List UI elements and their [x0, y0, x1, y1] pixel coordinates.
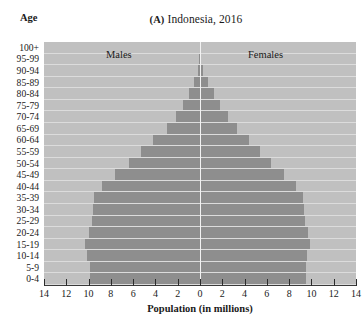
bar-male — [167, 123, 200, 134]
age-tick-label: 10-14 — [17, 251, 39, 261]
x-axis-tick-label: 8 — [287, 288, 292, 299]
x-axis-tick — [334, 279, 335, 286]
bar-male — [87, 250, 200, 261]
bar-male — [115, 169, 200, 180]
bar-male — [102, 181, 200, 192]
x-axis-tick — [245, 279, 246, 286]
age-tick-label: 55-59 — [17, 147, 39, 157]
bar-male — [94, 192, 200, 203]
age-tick-label: 85-89 — [17, 78, 39, 88]
age-tick-label: 35-39 — [17, 193, 39, 203]
chart-title: (A) Indonesia, 2016 — [36, 13, 356, 25]
bar-male — [85, 239, 200, 250]
bar-female — [200, 77, 208, 88]
series-label-males: Males — [106, 49, 132, 60]
age-tick-label: 60-64 — [17, 135, 39, 145]
bar-male — [89, 227, 200, 238]
x-axis-tick-label: 4 — [242, 288, 247, 299]
x-axis-tick-label: 6 — [264, 288, 269, 299]
bar-male — [141, 146, 200, 157]
age-tick-label: 5-9 — [26, 263, 39, 273]
bar-male — [129, 158, 200, 169]
x-axis-tick-label: 2 — [220, 288, 225, 299]
age-tick-label: 15-19 — [17, 240, 39, 250]
age-tick-label: 65-69 — [17, 124, 39, 134]
bar-female — [200, 100, 220, 111]
bar-female — [200, 204, 304, 215]
x-axis-tick — [200, 279, 201, 286]
x-axis-title: Population (in millions) — [44, 303, 356, 314]
x-axis-tick — [111, 279, 112, 286]
bar-female — [200, 227, 308, 238]
age-tick-label: 0-4 — [26, 274, 39, 284]
age-tick-label: 30-34 — [17, 205, 39, 215]
bar-female — [200, 262, 306, 273]
age-tick-labels: 0-45-910-1415-1920-2425-2930-3435-3940-4… — [0, 42, 41, 285]
x-axis-tick — [89, 279, 90, 286]
x-axis-tick-label: 10 — [84, 288, 94, 299]
bar-female — [200, 169, 284, 180]
x-axis-tick — [178, 279, 179, 286]
x-axis-tick-label: 6 — [131, 288, 136, 299]
x-axis-tick — [289, 279, 290, 286]
age-tick-label: 70-74 — [17, 112, 39, 122]
bar-male — [153, 135, 200, 146]
x-axis-tick — [222, 279, 223, 286]
bar-female — [200, 192, 303, 203]
bar-male — [92, 216, 200, 227]
bar-female — [200, 158, 271, 169]
x-axis-tick-label: 10 — [306, 288, 316, 299]
bar-female — [200, 146, 260, 157]
plot-area: Males Females — [44, 42, 356, 285]
age-tick-label: 20-24 — [17, 228, 39, 238]
bar-male — [93, 204, 200, 215]
bar-male — [90, 262, 200, 273]
age-tick-label: 25-29 — [17, 216, 39, 226]
bar-female — [200, 88, 214, 99]
bar-female — [200, 239, 310, 250]
age-tick-label: 50-54 — [17, 159, 39, 169]
bar-female — [200, 216, 305, 227]
age-tick-label: 95-99 — [17, 54, 39, 64]
age-axis-label: Age — [20, 12, 38, 23]
series-label-females: Females — [248, 49, 283, 60]
x-axis-tick-label: 12 — [329, 288, 339, 299]
bar-male — [183, 100, 200, 111]
x-axis-tick-label: 14 — [351, 288, 361, 299]
x-axis-tick — [356, 279, 357, 286]
age-tick-label: 75-79 — [17, 101, 39, 111]
bar-female — [200, 250, 307, 261]
x-axis-tick — [133, 279, 134, 286]
chart-title-text: Indonesia, 2016 — [167, 13, 242, 25]
x-axis-tick — [66, 279, 67, 286]
age-tick-label: 90-94 — [17, 66, 39, 76]
zero-axis-line — [200, 42, 201, 285]
panel-letter: (A) — [150, 14, 165, 25]
x-axis-tick-label: 8 — [108, 288, 113, 299]
x-axis-tick — [311, 279, 312, 286]
age-tick-label: 100+ — [19, 43, 39, 53]
x-axis-tick-label: 12 — [61, 288, 71, 299]
bar-male — [189, 88, 200, 99]
bar-female — [200, 181, 296, 192]
age-tick-label: 40-44 — [17, 182, 39, 192]
x-axis-tick-label: 2 — [175, 288, 180, 299]
bar-female — [200, 135, 249, 146]
x-axis-tick — [267, 279, 268, 286]
bar-female — [200, 111, 228, 122]
age-tick-label: 80-84 — [17, 89, 39, 99]
x-axis-tick — [155, 279, 156, 286]
age-tick-label: 45-49 — [17, 170, 39, 180]
x-axis-tick — [44, 279, 45, 286]
bar-female — [200, 123, 237, 134]
x-axis-tick-label: 14 — [39, 288, 49, 299]
population-pyramid-figure: Age (A) Indonesia, 2016 0-45-910-1415-19… — [0, 0, 362, 334]
bar-male — [90, 273, 200, 284]
x-axis-tick-label: 0 — [198, 288, 203, 299]
bar-male — [176, 111, 201, 122]
x-axis-tick-label: 4 — [153, 288, 158, 299]
